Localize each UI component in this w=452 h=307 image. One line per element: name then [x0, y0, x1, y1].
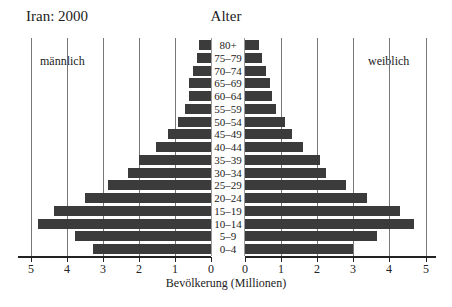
bar-male: [85, 193, 211, 203]
tick-label-right: 4: [379, 262, 399, 277]
bar-male: [185, 104, 211, 114]
age-group-label: 35–39: [211, 154, 245, 167]
age-group-label: 55–59: [211, 103, 245, 116]
bar-female: [245, 66, 266, 76]
bar-male: [199, 40, 211, 50]
bar-female: [245, 117, 285, 127]
bar-female: [245, 104, 276, 114]
bar-female: [245, 193, 367, 203]
age-group-label: 45–49: [211, 128, 245, 141]
age-group-label: 10–14: [211, 218, 245, 231]
age-group-label: 75–79: [211, 52, 245, 65]
age-group-label: 50–54: [211, 116, 245, 129]
age-group-label: 0–4: [211, 243, 245, 256]
bar-female: [245, 129, 292, 139]
tick-label-left: 0: [201, 262, 221, 277]
age-group-label: 65–69: [211, 77, 245, 90]
bar-male: [139, 155, 211, 165]
tick-label-right: 0: [235, 262, 255, 277]
bar-female: [245, 78, 270, 88]
bar-female: [245, 231, 377, 241]
age-group-label: 25–29: [211, 179, 245, 192]
bar-female: [245, 155, 320, 165]
bar-female: [245, 180, 346, 190]
bar-male: [93, 244, 211, 254]
tick-label-left: 2: [129, 262, 149, 277]
age-group-label: 40–44: [211, 141, 245, 154]
x-axis-left: [18, 256, 211, 258]
bar-female: [245, 244, 353, 254]
bar-male: [108, 180, 211, 190]
age-group-label: 30–34: [211, 167, 245, 180]
tick-label-left: 5: [21, 262, 41, 277]
bar-female: [245, 142, 303, 152]
tick-label-left: 1: [165, 262, 185, 277]
age-group-label: 70–74: [211, 65, 245, 78]
bar-male: [193, 66, 211, 76]
age-group-label: 15–19: [211, 205, 245, 218]
bar-male: [168, 129, 211, 139]
bar-male: [189, 78, 211, 88]
age-axis-title: Alter: [0, 8, 452, 25]
bar-female: [245, 91, 272, 101]
gridline: [31, 38, 32, 256]
x-axis-label: Bevölkerung (Millionen): [0, 276, 452, 291]
tick-label-right: 5: [416, 262, 436, 277]
bar-male: [189, 91, 211, 101]
bar-male: [197, 53, 211, 63]
tick-label-left: 3: [93, 262, 113, 277]
age-group-label: 80+: [211, 39, 245, 52]
x-axis-right: [245, 256, 436, 258]
gridline: [426, 38, 427, 256]
tick-label-right: 1: [271, 262, 291, 277]
tick-label-right: 3: [343, 262, 363, 277]
bar-male: [54, 206, 211, 216]
bar-male: [38, 219, 211, 229]
age-group-label: 20–24: [211, 192, 245, 205]
bar-male: [156, 142, 211, 152]
bar-female: [245, 206, 400, 216]
age-group-label: 60–64: [211, 90, 245, 103]
tick-label-left: 4: [57, 262, 77, 277]
bar-male: [128, 168, 211, 178]
age-group-label: 5–9: [211, 230, 245, 243]
bar-female: [245, 53, 262, 63]
bar-male: [75, 231, 211, 241]
bar-male: [178, 117, 211, 127]
bar-female: [245, 168, 326, 178]
male-legend-label: männlich: [40, 54, 85, 69]
tick-label-right: 2: [307, 262, 327, 277]
bar-female: [245, 40, 259, 50]
bar-female: [245, 219, 414, 229]
